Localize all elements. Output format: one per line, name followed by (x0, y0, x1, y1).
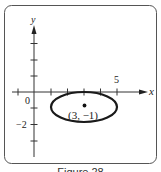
ellipse-graph (0, 0, 161, 172)
figure-frame (5, 6, 157, 164)
y-axis-label: y (31, 15, 35, 25)
center-point (83, 104, 87, 108)
origin-label: 0 (25, 96, 30, 106)
x-axis-arrow-icon (139, 90, 148, 95)
x-axis-label: x (149, 86, 154, 97)
point-label: (3, −1) (68, 110, 98, 121)
y-axis-arrow-icon (32, 25, 37, 34)
x-tick-label-5: 5 (114, 75, 119, 85)
figure-caption: Figure 28 (0, 166, 161, 172)
y-tick-label-neg2: −2 (16, 120, 27, 130)
